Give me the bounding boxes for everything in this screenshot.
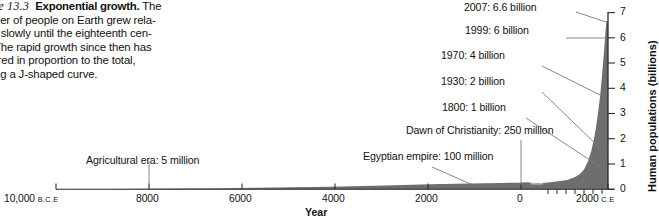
annotation-1800: 1800: 1 billion	[442, 102, 506, 113]
x-tick-2000-ce-value: 2000	[576, 193, 599, 204]
population-chart: Agricultural era: 5 million Egyptian emp…	[0, 0, 659, 222]
x-tick-4000: 4000	[322, 193, 345, 204]
x-tick-6000: 6000	[229, 193, 252, 204]
y-tick-0: 0	[620, 183, 626, 194]
chart-canvas	[0, 0, 659, 222]
leader-1970	[542, 66, 604, 97]
x-tick-10000-bce: 10,000 B.C.E	[4, 193, 58, 204]
leader-1930	[542, 92, 604, 152]
y-tick-3: 3	[620, 107, 626, 118]
x-tick-10000-bce-value: 10,000	[4, 193, 35, 204]
leader-2007	[576, 12, 606, 22]
x-tick-2000-ce: 2000 C.E	[576, 193, 615, 204]
annotation-1970: 1970: 4 billion	[441, 50, 505, 61]
y-axis-ticks	[608, 13, 615, 190]
x-tick-10000-bce-era: B.C.E	[38, 195, 59, 204]
x-tick-2000-bce: 2000	[415, 193, 438, 204]
annotation-1930: 1930: 2 billion	[441, 76, 505, 87]
y-tick-4: 4	[620, 82, 626, 93]
y-tick-1: 1	[620, 158, 626, 169]
y-axis-title: Human populations (billions)	[646, 40, 658, 192]
annotation-egyptian-empire: Egyptian empire: 100 million	[363, 151, 493, 162]
population-dip-detail	[531, 183, 543, 185]
annotation-1999: 1999: 6 billion	[465, 25, 529, 36]
y-tick-7: 7	[620, 6, 626, 17]
y-tick-2: 2	[620, 133, 626, 144]
y-tick-6: 6	[620, 32, 626, 43]
leader-egyptian-empire	[432, 167, 474, 186]
x-tick-2000-ce-era: C.E	[601, 195, 614, 204]
annotation-dawn-of-christianity: Dawn of Christianity: 250 million	[406, 125, 553, 136]
x-tick-8000: 8000	[136, 193, 159, 204]
y-tick-5: 5	[620, 57, 626, 68]
x-tick-0: 0	[517, 193, 523, 204]
figure-exponential-growth: re 13.3 Exponential growth. The ber of p…	[0, 0, 659, 222]
annotation-agricultural-era: Agricultural era: 5 million	[86, 155, 199, 166]
x-axis-title: Year	[305, 206, 327, 218]
annotation-2007: 2007: 6.6 billion	[464, 2, 537, 13]
